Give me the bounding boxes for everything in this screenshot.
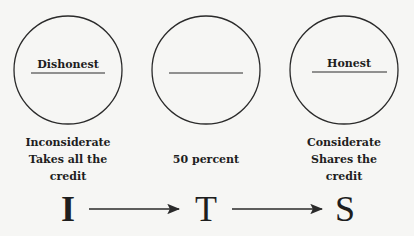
description-line: Takes all the <box>13 151 123 168</box>
circle-label-dishonest: Dishonest <box>23 58 113 71</box>
description-honest: Considerate Shares the credit <box>289 134 399 185</box>
circle-honest <box>290 16 398 124</box>
circle-middle <box>152 16 260 124</box>
description-line: Considerate <box>289 134 399 151</box>
description-line: credit <box>13 168 123 185</box>
letter-t: T <box>191 191 221 227</box>
letter-i: I <box>53 191 83 227</box>
description-line: Inconsiderate <box>13 134 123 151</box>
description-line: credit <box>289 168 399 185</box>
letter-s: S <box>330 191 360 227</box>
description-line: 50 percent <box>151 151 261 168</box>
description-middle: 50 percent <box>151 151 261 168</box>
description-line: Shares the <box>289 151 399 168</box>
description-dishonest: Inconsiderate Takes all the credit <box>13 134 123 185</box>
circle-label-honest: Honest <box>304 57 394 70</box>
